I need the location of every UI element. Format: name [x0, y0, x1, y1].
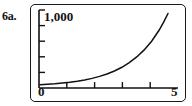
exponential-curve: [40, 14, 168, 85]
x-axis-min-label: 0: [38, 85, 45, 98]
x-axis-max-label: 5: [171, 85, 178, 98]
figure-container: 6a. 1,000 0 5: [0, 0, 192, 106]
y-axis-max-label: 1,000: [44, 10, 73, 23]
problem-number-label: 6a.: [2, 10, 16, 22]
x-axis-ticks: [67, 82, 150, 88]
